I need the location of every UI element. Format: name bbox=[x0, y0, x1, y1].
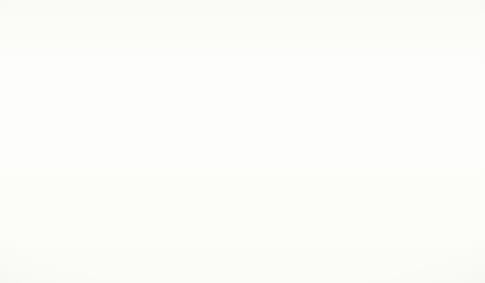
data-point bbox=[346, 61, 350, 65]
data-point bbox=[353, 61, 357, 65]
data-point bbox=[437, 31, 441, 35]
data-point bbox=[340, 69, 344, 73]
data-point bbox=[206, 145, 210, 149]
data-point bbox=[431, 13, 435, 17]
data-point bbox=[401, 35, 405, 39]
data-point bbox=[314, 97, 318, 101]
data-point bbox=[398, 38, 402, 42]
data-point bbox=[171, 160, 175, 164]
data-point bbox=[275, 108, 279, 112]
data-point bbox=[174, 160, 178, 164]
data-point bbox=[294, 99, 298, 103]
data-point bbox=[268, 107, 272, 111]
data-point bbox=[392, 62, 396, 66]
data-point bbox=[317, 94, 321, 98]
data-point bbox=[141, 172, 145, 176]
data-point bbox=[177, 157, 181, 161]
data-point bbox=[158, 159, 162, 163]
data-point bbox=[187, 155, 191, 159]
data-point bbox=[288, 99, 292, 103]
data-point bbox=[343, 75, 347, 79]
data-point bbox=[424, 49, 428, 53]
data-point bbox=[427, 21, 431, 25]
x-axis-tick-label: 80 bbox=[367, 239, 407, 251]
y-axis-title-line-3: corn kernels (%) bbox=[25, 112, 110, 124]
data-point bbox=[349, 68, 353, 72]
y-axis-tick-label: 5 bbox=[94, 176, 116, 188]
y-axis-title-line-1: Average oil bbox=[39, 83, 98, 95]
data-point bbox=[167, 159, 171, 163]
band-annotation-label: Original population range bbox=[195, 174, 326, 186]
data-series-points bbox=[125, 13, 454, 189]
data-point bbox=[444, 46, 448, 50]
data-point bbox=[333, 82, 337, 86]
data-point bbox=[135, 176, 139, 180]
data-point bbox=[232, 130, 236, 134]
data-point bbox=[278, 105, 282, 109]
data-point bbox=[418, 36, 422, 40]
data-point bbox=[356, 80, 360, 84]
data-point bbox=[330, 84, 334, 88]
data-point bbox=[148, 168, 152, 172]
data-point bbox=[440, 19, 444, 23]
data-point bbox=[213, 137, 217, 141]
data-point bbox=[193, 150, 197, 154]
data-point bbox=[132, 179, 136, 183]
data-point bbox=[281, 98, 285, 102]
x-axis-title: Generation bbox=[245, 256, 345, 268]
data-point bbox=[297, 100, 301, 104]
data-point bbox=[414, 37, 418, 41]
data-point bbox=[255, 108, 259, 112]
data-point bbox=[307, 100, 311, 104]
data-point bbox=[271, 100, 275, 104]
data-point bbox=[291, 80, 295, 84]
data-point bbox=[138, 175, 142, 179]
data-point bbox=[180, 156, 184, 160]
data-point bbox=[184, 154, 188, 158]
figure-container: Average oil content of corn kernels (%) … bbox=[0, 0, 485, 283]
data-point bbox=[249, 112, 253, 116]
y-axis-title-line-2: content of bbox=[42, 98, 94, 110]
data-point bbox=[447, 31, 451, 35]
data-point bbox=[408, 23, 412, 27]
data-point bbox=[395, 47, 399, 51]
data-point bbox=[203, 146, 207, 150]
data-point bbox=[382, 55, 386, 59]
data-point bbox=[362, 58, 366, 62]
x-axis-tick-label: 100 bbox=[432, 239, 472, 251]
data-point bbox=[236, 128, 240, 132]
data-point bbox=[223, 134, 227, 138]
data-point bbox=[304, 100, 308, 104]
y-axis-tick-label: 0 bbox=[94, 225, 116, 237]
data-point bbox=[434, 37, 438, 41]
data-point bbox=[450, 31, 454, 35]
data-point bbox=[372, 54, 376, 58]
data-point bbox=[210, 140, 214, 144]
data-point bbox=[151, 166, 155, 170]
data-point bbox=[327, 84, 331, 88]
data-point bbox=[284, 104, 288, 108]
data-point bbox=[336, 80, 340, 84]
data-point bbox=[388, 63, 392, 67]
data-point bbox=[164, 159, 168, 163]
data-point bbox=[239, 121, 243, 125]
data-point bbox=[385, 49, 389, 53]
data-point bbox=[161, 158, 165, 162]
data-point bbox=[219, 134, 223, 138]
data-point bbox=[323, 86, 327, 90]
data-point bbox=[128, 182, 132, 186]
data-point bbox=[375, 55, 379, 59]
x-axis-tick-label: 40 bbox=[237, 239, 277, 251]
data-point bbox=[366, 55, 370, 59]
x-axis-tick-label: 60 bbox=[302, 239, 342, 251]
data-point bbox=[411, 36, 415, 40]
data-point bbox=[320, 90, 324, 94]
data-point bbox=[359, 68, 363, 72]
data-point bbox=[190, 152, 194, 156]
data-point bbox=[242, 116, 246, 120]
data-point bbox=[252, 112, 256, 116]
y-axis-tick-label: 15 bbox=[94, 79, 116, 91]
x-axis-ticks bbox=[127, 232, 452, 237]
data-point bbox=[301, 95, 305, 99]
data-point bbox=[226, 133, 230, 137]
